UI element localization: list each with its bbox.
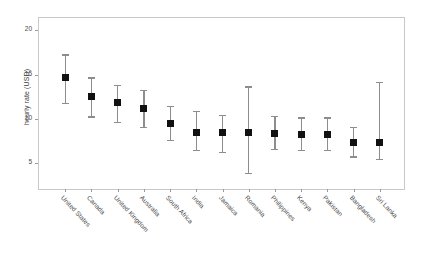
error-bar-cap-upper xyxy=(62,54,69,55)
error-bar-cap-lower xyxy=(167,140,174,141)
error-bar-cap-upper xyxy=(350,127,357,128)
error-bar-cap-lower xyxy=(324,150,331,151)
error-bar-cap-upper xyxy=(88,77,95,78)
data-point-marker xyxy=(271,130,278,137)
x-tick-label: Romania xyxy=(244,194,267,218)
y-tick-label: 5 xyxy=(28,158,32,165)
data-point-marker xyxy=(219,129,226,136)
data-point-marker xyxy=(193,129,200,136)
error-bar-cap-upper xyxy=(193,111,200,112)
data-point-marker xyxy=(324,131,331,138)
y-tick-label: 10 xyxy=(25,114,32,121)
error-bar-cap-upper xyxy=(114,85,121,86)
data-point-marker xyxy=(245,129,252,136)
error-bar-cap-upper xyxy=(219,115,226,116)
error-bar-cap-upper xyxy=(271,116,278,117)
error-bar-line xyxy=(379,82,380,159)
x-tick-label: Bangladesh xyxy=(348,194,377,224)
x-tick-mark xyxy=(301,189,302,192)
chart-figure: hourly rate (USD) 5101520 United StatesC… xyxy=(0,0,431,265)
x-tick-label: Australia xyxy=(139,194,162,218)
data-point-marker xyxy=(62,74,69,81)
error-bar-cap-lower xyxy=(193,150,200,151)
data-point-marker xyxy=(376,139,383,146)
error-bar-cap-lower xyxy=(298,150,305,151)
data-point-marker xyxy=(350,139,357,146)
error-bar-cap-lower xyxy=(62,103,69,104)
x-tick-mark xyxy=(223,189,224,192)
x-tick-label: Jamaica xyxy=(217,194,239,217)
data-point-marker xyxy=(140,105,147,112)
data-point-marker xyxy=(298,131,305,138)
x-tick-mark xyxy=(170,189,171,192)
error-bar-cap-lower xyxy=(140,127,147,128)
error-bar-cap-upper xyxy=(140,90,147,91)
x-tick-label: Sri Lanka xyxy=(375,194,399,219)
error-bar-cap-upper xyxy=(298,117,305,118)
x-tick-label: Philippines xyxy=(270,194,297,222)
x-tick-label: Pakistan xyxy=(322,194,344,217)
data-point-marker xyxy=(167,120,174,127)
x-tick-mark xyxy=(327,189,328,192)
data-point-marker xyxy=(88,93,95,100)
error-bar-cap-lower xyxy=(271,149,278,150)
error-bar-cap-lower xyxy=(114,122,121,123)
data-point-marker xyxy=(114,99,121,106)
x-tick-mark xyxy=(380,189,381,192)
x-tick-mark xyxy=(65,189,66,192)
x-tick-label: Kenya xyxy=(296,194,314,212)
error-bar-cap-lower xyxy=(88,116,95,117)
error-bar-cap-upper xyxy=(324,117,331,118)
x-tick-mark xyxy=(354,189,355,192)
y-tick-label: 20 xyxy=(25,25,32,32)
x-tick-mark xyxy=(249,189,250,192)
error-bar-cap-lower xyxy=(219,152,226,153)
x-tick-mark xyxy=(275,189,276,192)
error-bar-cap-lower xyxy=(245,173,252,174)
x-tick-mark xyxy=(144,189,145,192)
x-tick-label: Canada xyxy=(86,194,107,216)
x-tick-mark xyxy=(91,189,92,192)
x-tick-mark xyxy=(196,189,197,192)
error-bar-cap-upper xyxy=(245,86,252,87)
error-bar-cap-upper xyxy=(167,106,174,107)
plot-area: United StatesCanadaUnited KingdomAustral… xyxy=(38,17,405,190)
x-tick-mark xyxy=(118,189,119,192)
error-bar-cap-lower xyxy=(350,156,357,157)
x-tick-label: India xyxy=(191,194,206,209)
error-bar-cap-upper xyxy=(376,82,383,83)
y-tick-label: 15 xyxy=(25,70,32,77)
error-bar-cap-lower xyxy=(376,159,383,160)
